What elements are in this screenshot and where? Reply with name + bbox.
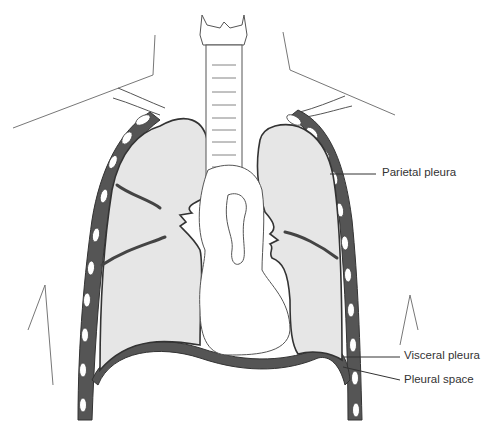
label-visceral-pleura: Visceral pleura (404, 349, 480, 361)
trachea (200, 15, 247, 190)
label-parietal-pleura: Parietal pleura (382, 166, 456, 178)
label-pleural-space: Pleural space (404, 373, 474, 385)
